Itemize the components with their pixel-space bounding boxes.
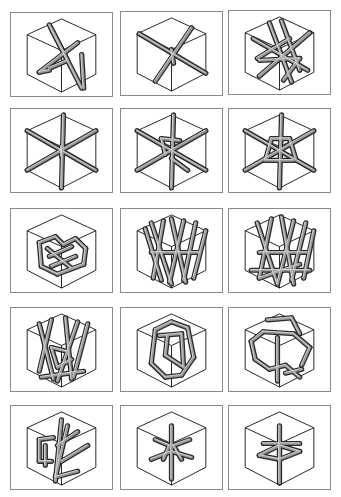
lattice-cell-12 — [228, 307, 331, 392]
strut-group — [250, 317, 309, 381]
lattice-unit-cell-drawing — [229, 109, 330, 192]
strut-group — [136, 114, 205, 188]
lattice-cell-13 — [10, 405, 113, 490]
lattice-cell-3 — [228, 10, 331, 95]
lattice-unit-cell-drawing — [229, 209, 330, 292]
lattice-unit-cell-drawing — [229, 11, 330, 94]
lattice-cell-2 — [120, 11, 223, 96]
lattice-cell-4 — [10, 108, 113, 193]
lattice-cell-7 — [10, 208, 113, 293]
strut-group — [138, 27, 205, 81]
strut-group — [144, 218, 205, 284]
lattice-cell-1 — [10, 12, 113, 97]
lattice-cell-11 — [120, 307, 223, 392]
lattice-cell-10 — [10, 307, 113, 392]
lattice-figure-grid — [0, 0, 341, 497]
strut-group — [38, 317, 87, 381]
lattice-unit-cell-drawing — [11, 209, 112, 292]
lattice-cell-6 — [228, 108, 331, 193]
lattice-unit-cell-drawing — [11, 13, 112, 96]
lattice-unit-cell-drawing — [121, 406, 222, 489]
strut-group — [250, 216, 313, 284]
lattice-unit-cell-drawing — [11, 406, 112, 489]
lattice-cell-8 — [120, 208, 223, 293]
strut-group — [258, 425, 299, 483]
strut-group — [244, 114, 313, 188]
strut-group — [150, 321, 193, 377]
lattice-unit-cell-drawing — [121, 209, 222, 292]
lattice-cell-5 — [120, 108, 223, 193]
lattice-unit-cell-drawing — [121, 12, 222, 95]
lattice-unit-cell-drawing — [121, 109, 222, 192]
lattice-unit-cell-drawing — [11, 109, 112, 192]
strut-group — [38, 419, 87, 481]
lattice-cell-14 — [120, 405, 223, 490]
lattice-unit-cell-drawing — [229, 406, 330, 489]
lattice-cell-9 — [228, 208, 331, 293]
strut-group — [252, 20, 309, 82]
lattice-cell-15 — [228, 405, 331, 490]
lattice-unit-cell-drawing — [229, 308, 330, 391]
strut-group — [38, 236, 85, 274]
strut-group — [26, 114, 95, 188]
lattice-unit-cell-drawing — [121, 308, 222, 391]
lattice-unit-cell-drawing — [11, 308, 112, 391]
strut-group — [150, 425, 191, 479]
